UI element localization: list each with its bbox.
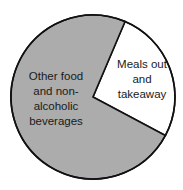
slice-label-other-food: Other food and non- alcoholic beverages bbox=[22, 69, 90, 129]
slice-label-meals-out: Meals out and takeaway bbox=[112, 57, 172, 102]
